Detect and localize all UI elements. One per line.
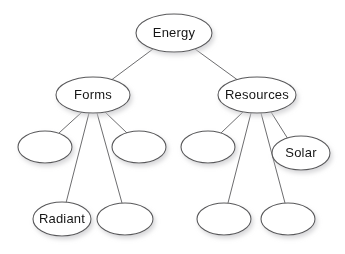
node-forms-c4[interactable]: [97, 203, 153, 235]
node-resources[interactable]: Resources: [218, 77, 296, 113]
node-res-c1[interactable]: [181, 131, 235, 163]
node-shape-res-c4[interactable]: [261, 203, 315, 235]
energy-concept-map: EnergyFormsResourcesRadiantSolar: [0, 0, 345, 254]
node-res-c4[interactable]: [261, 203, 315, 235]
node-shape-res-c3[interactable]: [197, 203, 251, 235]
node-shape-forms-c1[interactable]: [18, 131, 72, 163]
node-forms[interactable]: Forms: [56, 77, 130, 113]
node-shape-forms-c4[interactable]: [97, 203, 153, 235]
node-label-resources: Resources: [225, 87, 289, 102]
node-label-forms: Forms: [74, 87, 112, 102]
node-forms-c3[interactable]: Radiant: [33, 202, 91, 236]
node-res-c2[interactable]: Solar: [272, 136, 330, 170]
node-shape-forms-c2[interactable]: [112, 131, 166, 163]
node-label-energy: Energy: [153, 25, 196, 40]
node-forms-c1[interactable]: [18, 131, 72, 163]
node-res-c3[interactable]: [197, 203, 251, 235]
node-energy[interactable]: Energy: [136, 14, 212, 52]
node-shape-res-c1[interactable]: [181, 131, 235, 163]
node-label-res-c2: Solar: [285, 145, 317, 160]
node-label-forms-c3: Radiant: [39, 211, 85, 226]
node-forms-c2[interactable]: [112, 131, 166, 163]
